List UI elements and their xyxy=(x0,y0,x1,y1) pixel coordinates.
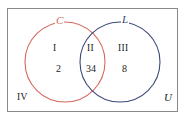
region-numeral-i: I xyxy=(53,44,56,54)
region-numeral-ii: II xyxy=(87,44,94,54)
region-numeral-iv: IV xyxy=(17,93,28,103)
set-label-l: L xyxy=(121,14,129,25)
region-count-i: 2 xyxy=(56,64,61,74)
venn-circles xyxy=(0,0,186,121)
set-circle-l xyxy=(80,22,160,102)
universe-label: U xyxy=(164,92,172,103)
region-numeral-iii: III xyxy=(118,44,128,54)
venn-diagram-figure: C L I II III 2 34 8 IV U xyxy=(0,0,186,121)
region-count-ii: 34 xyxy=(86,64,96,74)
set-circle-c xyxy=(25,22,105,102)
set-label-c: C xyxy=(55,15,64,26)
region-count-iii: 8 xyxy=(122,64,127,74)
